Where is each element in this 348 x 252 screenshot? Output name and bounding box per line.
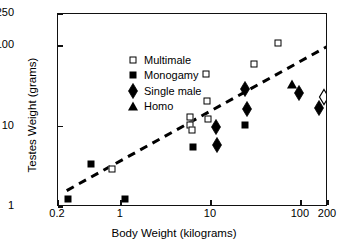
data-point-monogamy (189, 143, 196, 150)
data-point-monogamy (87, 161, 94, 168)
x-tick-mark (120, 200, 121, 205)
filled-triangle-icon (126, 99, 140, 113)
legend-label: Single male (144, 85, 201, 97)
filled-diamond-icon (126, 84, 140, 98)
data-point-unclassified (319, 90, 326, 105)
data-point-homo (287, 79, 297, 88)
y-tick-mark (58, 126, 63, 127)
y-tick-mark (58, 206, 63, 207)
legend-label: Homo (144, 100, 173, 112)
x-tick-mark (57, 200, 58, 205)
y-tick-label: 250 (0, 7, 14, 18)
data-point-monogamy (65, 196, 72, 203)
legend-item-single-male: Single male (126, 83, 231, 99)
open-square-icon (126, 53, 140, 67)
plot-frame: MultimaleMonogamySingle maleHomo (57, 13, 327, 206)
data-point-monogamy (121, 196, 128, 203)
data-point-single-male (212, 120, 221, 135)
y-tick-label: 100 (0, 39, 14, 50)
y-tick-mark (58, 13, 63, 14)
filled-square-icon (126, 68, 140, 82)
x-tick-mark (300, 200, 301, 205)
x-tick-label: 100 (291, 208, 309, 219)
legend-label: Multimale (144, 54, 191, 66)
data-point-multimale (204, 115, 211, 122)
y-tick-mark (58, 45, 63, 46)
data-point-multimale (189, 127, 196, 134)
legend-item-monogamy: Monogamy (126, 68, 231, 84)
x-tick-label: 1 (117, 208, 123, 219)
data-point-multimale (109, 165, 116, 172)
y-tick-label: 1 (8, 200, 14, 211)
x-tick-label: 200 (318, 208, 336, 219)
legend-item-multimale: Multimale (126, 52, 231, 68)
chart-figure: Testes Weight (grams) Body Weight (kilog… (0, 0, 348, 252)
x-tick-mark (210, 200, 211, 205)
x-tick-label: 10 (204, 208, 216, 219)
data-point-multimale (250, 60, 257, 67)
data-point-single-male (242, 102, 251, 117)
legend-label: Monogamy (144, 69, 198, 81)
x-tick-label: 0.2 (49, 208, 64, 219)
chart-legend: MultimaleMonogamySingle maleHomo (126, 52, 231, 114)
data-point-multimale (186, 114, 193, 121)
data-point-single-male (241, 82, 250, 97)
data-point-multimale (274, 39, 281, 46)
data-point-single-male (213, 137, 222, 152)
x-axis-label: Body Weight (kilograms) (0, 227, 348, 239)
legend-item-homo: Homo (126, 99, 231, 115)
data-point-monogamy (242, 121, 249, 128)
y-tick-label: 10 (2, 120, 14, 131)
x-tick-mark (327, 200, 328, 205)
y-axis-label: Testes Weight (grams) (26, 25, 38, 205)
